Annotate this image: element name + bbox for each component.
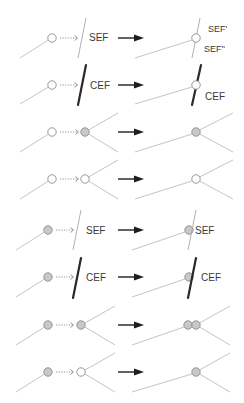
open-node	[192, 34, 200, 42]
open-node	[48, 34, 56, 42]
edge	[200, 374, 231, 392]
cef-line	[78, 65, 86, 105]
row-8	[16, 353, 230, 392]
filled-node	[44, 226, 52, 234]
cef-label: CEF	[201, 272, 221, 283]
edge	[85, 353, 115, 370]
row-6: CEF CEF	[16, 258, 221, 298]
edge	[132, 374, 192, 392]
edge	[20, 40, 49, 58]
edge	[135, 181, 192, 199]
filled-node	[44, 273, 52, 281]
cef-label: CEF	[86, 272, 106, 283]
row-6-after: CEF	[132, 258, 221, 298]
filled-node	[44, 321, 52, 329]
sef-label: SEF	[195, 225, 214, 236]
filled-node	[192, 368, 200, 376]
row-8-after	[132, 353, 230, 392]
cef-label: CEF	[90, 80, 110, 91]
filled-node	[81, 128, 89, 136]
row-3-after	[135, 113, 233, 152]
cef-label: CEF	[205, 91, 225, 102]
filled-node	[192, 321, 200, 329]
edge	[89, 113, 119, 130]
edge	[200, 353, 231, 370]
sef-label: SEF	[89, 32, 108, 43]
transition-arrow	[118, 129, 144, 136]
row-5: SEF SEF	[16, 210, 214, 250]
row-6-before: CEF	[16, 258, 106, 298]
row-7-before	[16, 306, 115, 345]
row-7	[16, 306, 230, 345]
transition-arrow	[118, 227, 144, 234]
transition-arrow	[118, 274, 144, 281]
open-node	[48, 175, 56, 183]
open-node	[192, 175, 200, 183]
sef-line	[78, 18, 86, 58]
open-node	[81, 175, 89, 183]
row-7-after	[132, 306, 230, 345]
edge	[20, 134, 49, 152]
edge	[20, 181, 49, 199]
filled-node	[77, 321, 85, 329]
row-4-before	[20, 160, 118, 199]
edge	[135, 87, 192, 104]
row-1: SEF SEF' SEF''	[20, 18, 228, 58]
filled-node	[44, 368, 52, 376]
filled-node	[184, 321, 192, 329]
row-5-before: SEF	[16, 210, 105, 250]
edge	[132, 232, 185, 250]
row-2: CEF CEF	[20, 65, 225, 105]
edge	[85, 306, 115, 323]
row-4-after	[135, 160, 233, 199]
open-node	[48, 81, 56, 89]
transition-arrow	[118, 369, 144, 376]
edge	[135, 40, 192, 58]
transition-arrow	[118, 176, 144, 183]
cef-line	[73, 258, 81, 298]
edge	[200, 306, 231, 323]
edge	[200, 181, 234, 199]
open-node	[48, 128, 56, 136]
transition-arrow	[118, 82, 144, 89]
edge	[135, 134, 192, 152]
edge	[16, 374, 45, 392]
transition-arrow	[118, 35, 144, 42]
edge	[132, 327, 184, 345]
filled-node	[192, 128, 200, 136]
edge	[89, 160, 119, 177]
edge	[200, 160, 234, 177]
sef-double-prime-label: SEF''	[204, 44, 225, 54]
row-5-after: SEF	[132, 210, 214, 250]
row-3	[20, 113, 233, 152]
edge	[132, 279, 185, 297]
row-4	[20, 160, 233, 199]
edge	[200, 134, 234, 152]
row-1-before: SEF	[20, 18, 108, 58]
edge	[20, 87, 49, 104]
transition-arrow	[118, 322, 144, 329]
edge	[16, 327, 45, 345]
row-2-after: CEF	[135, 65, 225, 105]
edge	[85, 374, 115, 392]
node-merge-rules-diagram: SEF SEF' SEF'' CEF	[0, 0, 244, 403]
edge	[89, 134, 119, 152]
edge	[16, 232, 45, 250]
row-2-before: CEF	[20, 65, 110, 105]
sef-label: SEF	[86, 225, 105, 236]
row-8-before	[16, 353, 115, 392]
edge	[16, 279, 45, 297]
open-node	[192, 81, 200, 89]
sef-prime-label: SEF'	[208, 24, 228, 34]
open-node	[77, 368, 85, 376]
edge	[200, 113, 234, 130]
edge	[89, 181, 119, 199]
row-3-before	[20, 113, 118, 152]
edge	[200, 327, 231, 345]
row-1-after: SEF' SEF''	[135, 18, 228, 58]
edge	[85, 327, 115, 345]
